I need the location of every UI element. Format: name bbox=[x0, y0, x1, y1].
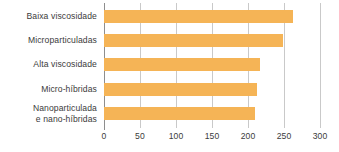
x-tick-label-200: 200 bbox=[228, 131, 268, 141]
x-tick-label-150: 150 bbox=[192, 131, 232, 141]
bar-baixa-viscosidade bbox=[104, 10, 293, 23]
bar-micro-hibridas bbox=[104, 83, 257, 96]
gridline-300 bbox=[320, 3, 321, 128]
bar-chart: Baixa viscosidade Microparticuladas Alta… bbox=[0, 0, 339, 152]
category-label-microparticuladas: Microparticuladas bbox=[28, 35, 97, 46]
x-tick-label-100: 100 bbox=[156, 131, 196, 141]
category-label-nanoparticulada-e-nano-hibridas: Nanoparticulada e nano-híbridas bbox=[33, 103, 97, 124]
category-label-micro-hibridas: Micro-híbridas bbox=[41, 84, 97, 95]
bar-alta-viscosidade bbox=[104, 58, 260, 71]
bar-microparticuladas bbox=[104, 34, 283, 47]
category-label-alta-viscosidade: Alta viscosidade bbox=[33, 59, 97, 70]
x-tick-label-250: 250 bbox=[264, 131, 304, 141]
x-tick-label-0: 0 bbox=[84, 131, 124, 141]
bar-nanoparticulada-e-nano-hibridas bbox=[104, 107, 255, 120]
x-tick-label-300: 300 bbox=[300, 131, 339, 141]
category-label-baixa-viscosidade: Baixa viscosidade bbox=[27, 11, 98, 22]
plot-area: Baixa viscosidade Microparticuladas Alta… bbox=[0, 0, 339, 152]
x-tick-label-50: 50 bbox=[120, 131, 160, 141]
